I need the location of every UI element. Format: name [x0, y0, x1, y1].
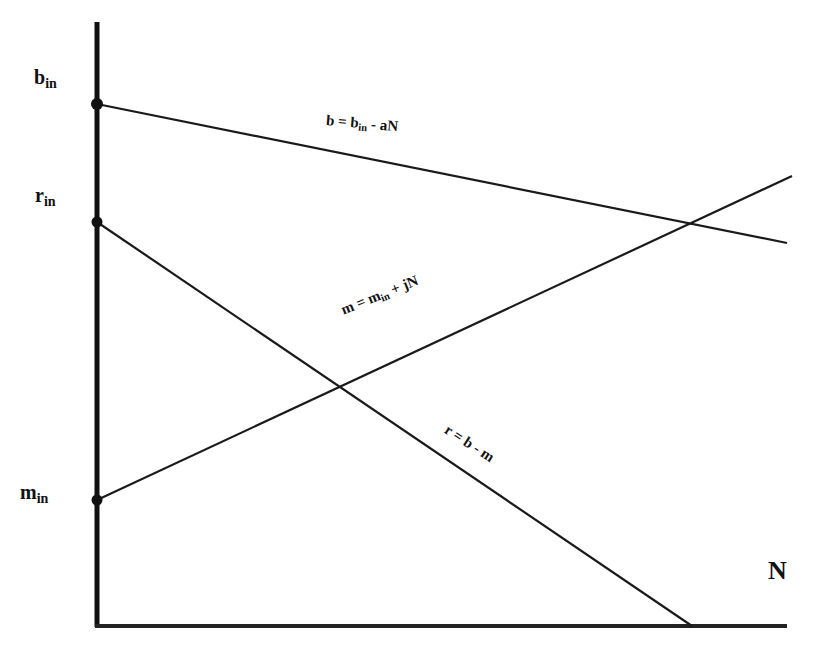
- diagram-canvas: [0, 0, 815, 650]
- r-in-sub: in: [44, 194, 56, 209]
- b-in-sub: in: [45, 76, 57, 91]
- eq-b-lhs: b = b: [325, 112, 359, 131]
- b-intercept-dot: [91, 98, 103, 110]
- m-intercept-dot: [92, 495, 103, 506]
- m-in-sub: in: [37, 491, 49, 506]
- m-in-label: min: [20, 481, 48, 507]
- b-in-base: b: [34, 66, 45, 88]
- r-in-label: rin: [35, 184, 56, 210]
- m-in-base: m: [20, 481, 37, 503]
- line-b: [97, 104, 787, 243]
- x-axis-label: N: [768, 556, 787, 586]
- r-in-base: r: [35, 184, 44, 206]
- r-intercept-dot: [92, 217, 103, 228]
- eq-b-rhs: - aN: [367, 116, 399, 135]
- b-in-label: bin: [34, 66, 57, 92]
- line-m: [97, 176, 792, 500]
